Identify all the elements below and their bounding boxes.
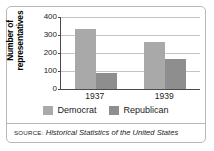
y-tick-label: 200 (35, 49, 57, 57)
y-tick-label: 0 (35, 85, 57, 93)
chart-legend: DemocratRepublican (7, 105, 205, 115)
axis-lines (60, 17, 200, 90)
x-tick-label: 1939 (155, 91, 174, 101)
bar-democrat-1939 (144, 42, 165, 89)
y-tick-mark (58, 89, 61, 90)
y-axis-title: Number of representatives (6, 3, 25, 79)
y-axis-tick-labels: 0100200300400 (35, 17, 57, 89)
bar-republican-1937 (96, 73, 117, 89)
source-divider (7, 123, 205, 124)
legend-label: Republican (123, 105, 168, 115)
legend-swatch-icon (109, 106, 119, 115)
y-tick-label: 400 (35, 13, 57, 21)
bar-democrat-1937 (75, 29, 96, 89)
source-kicker: SOURCE: (14, 129, 44, 136)
x-tick-label: 1937 (85, 91, 104, 101)
y-tick-label: 100 (35, 67, 57, 75)
legend-item-democrat: Democrat (43, 105, 96, 115)
x-axis-tick-labels: 19371939 (60, 91, 199, 103)
legend-label: Democrat (57, 105, 96, 115)
bar-series-group (61, 17, 200, 89)
legend-item-republican: Republican (109, 105, 168, 115)
plot-area: Number of representatives 0100200300400 … (7, 7, 207, 97)
chart-figure: Number of representatives 0100200300400 … (6, 6, 206, 143)
bar-republican-1939 (165, 59, 186, 89)
legend-swatch-icon (43, 106, 53, 115)
source-note: SOURCE: Historical Statistics of the Uni… (14, 127, 200, 138)
source-title: Historical Statistics of the United Stat… (46, 128, 179, 137)
y-tick-label: 300 (35, 31, 57, 39)
